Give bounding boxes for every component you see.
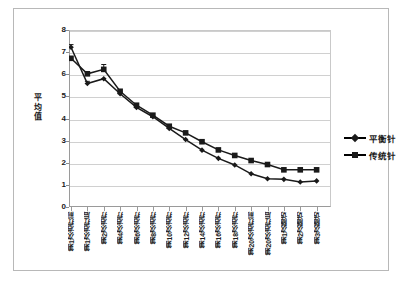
x-axis-tick-label: 第6次治疗 <box>133 212 143 244</box>
y-axis-tick-mark <box>66 96 69 97</box>
y-axis-tick-label: 1 <box>44 180 66 189</box>
x-axis-tick-mark <box>300 207 301 211</box>
series-2 <box>69 56 319 173</box>
data-point-marker <box>281 177 287 183</box>
x-axis-tick-mark <box>169 207 170 211</box>
y-axis-tick-mark <box>66 185 69 186</box>
series-1 <box>69 44 319 184</box>
legend-item-1[interactable]: 平衡针 <box>344 129 403 146</box>
y-axis-tick-label: 5 <box>44 91 66 100</box>
y-axis-tick-label: 6 <box>44 69 66 78</box>
y-axis-tick-labels: 876543210 <box>42 9 66 282</box>
chart-frame: 平均值 876543210 第1次治疗前第1次治疗后第2次治疗第4次治疗第6次治… <box>13 8 389 271</box>
data-point-marker <box>69 44 74 50</box>
x-axis-tick-label: 第2次治疗 <box>100 212 110 244</box>
data-point-marker <box>314 167 320 173</box>
data-point-marker <box>101 67 107 73</box>
x-axis-tick-label: 第18次治疗 <box>231 212 241 248</box>
data-point-marker <box>281 167 287 173</box>
series-svg <box>69 30 331 207</box>
legend-item-2[interactable]: 传统针 <box>344 146 403 163</box>
y-axis-tick-mark <box>66 74 69 75</box>
x-axis-tick-mark <box>218 207 219 211</box>
data-point-marker <box>248 171 254 177</box>
x-axis-tick-mark <box>87 207 88 211</box>
data-point-marker <box>166 123 172 129</box>
x-axis-tick-mark <box>284 207 285 211</box>
x-axis-tick-mark <box>317 207 318 211</box>
x-axis-tick-label: 第20次治疗后 <box>264 212 274 255</box>
x-axis-tick-mark <box>235 207 236 211</box>
x-axis-tick-label: 第10次治疗 <box>165 212 175 248</box>
x-axis-tick-mark <box>268 207 269 211</box>
x-axis-tick-mark <box>137 207 138 211</box>
data-point-marker <box>297 167 303 173</box>
x-axis-tick-mark <box>186 207 187 211</box>
x-axis-tick-label: 第2次随访 <box>296 212 306 244</box>
diamond-marker-icon <box>344 132 366 144</box>
y-axis-tick-mark <box>66 119 69 120</box>
x-axis-tick-label: 第14次治疗 <box>198 212 208 248</box>
legend-item-label: 平衡针 <box>366 132 396 144</box>
y-axis-tick-label: 3 <box>44 136 66 145</box>
data-point-marker <box>297 179 303 185</box>
x-axis-tick-label: 第12次治疗 <box>182 212 192 248</box>
x-axis-tick-label: 第4次治疗 <box>116 212 126 244</box>
data-point-marker <box>134 102 140 108</box>
data-point-marker <box>150 112 156 118</box>
x-axis-tick-label: 第16次治疗 <box>214 212 224 248</box>
series-line <box>71 47 317 182</box>
x-axis-tick-label: 第20次治疗前 <box>247 212 257 255</box>
legend-item-label: 传统针 <box>366 149 396 161</box>
y-axis-tick-label: 8 <box>44 25 66 34</box>
data-point-marker <box>216 147 222 153</box>
data-point-marker <box>232 162 238 168</box>
y-axis-tick-label: 4 <box>44 114 66 123</box>
data-point-marker <box>69 56 74 62</box>
x-axis-tick-mark <box>71 207 72 211</box>
x-axis-tick-mark <box>120 207 121 211</box>
chart-legend: 平衡针传统针 <box>344 129 403 163</box>
data-point-marker <box>117 88 123 94</box>
x-axis-tick-label: 第1次治疗前 <box>67 212 77 251</box>
x-axis-tick-mark <box>153 207 154 211</box>
x-axis-tick-mark <box>104 207 105 211</box>
x-axis-tick-label: 第1次随访 <box>280 212 290 244</box>
data-point-marker <box>265 176 271 182</box>
data-point-marker <box>85 71 91 77</box>
x-axis-tick-labels: 第1次治疗前第1次治疗后第2次治疗第4次治疗第6次治疗第8次治疗第10次治疗第1… <box>69 212 331 282</box>
y-axis-tick-mark <box>66 141 69 142</box>
data-point-marker <box>265 162 271 168</box>
y-axis-tick-mark <box>66 30 69 31</box>
square-marker-icon <box>344 149 366 161</box>
y-axis-tick-label: 7 <box>44 47 66 56</box>
data-point-marker <box>248 158 254 164</box>
y-axis-tick-mark <box>66 207 69 208</box>
y-axis-tick-mark <box>66 52 69 53</box>
data-point-marker <box>216 156 222 162</box>
series-layer <box>69 30 331 207</box>
x-axis-tick-mark <box>251 207 252 211</box>
data-point-marker <box>314 178 320 184</box>
x-axis-tick-label: 第1次治疗后 <box>83 212 93 251</box>
data-point-marker <box>183 130 189 136</box>
x-axis-tick-label: 第8次治疗 <box>149 212 159 244</box>
data-point-marker <box>199 139 205 145</box>
y-axis-tick-label: 0 <box>44 202 66 211</box>
data-point-marker <box>232 153 238 159</box>
y-axis-tick-mark <box>66 163 69 164</box>
x-axis-tick-label: 第3次随访 <box>313 212 323 244</box>
x-axis-tick-mark <box>202 207 203 211</box>
y-axis-tick-label: 2 <box>44 158 66 167</box>
series-line <box>71 58 317 170</box>
